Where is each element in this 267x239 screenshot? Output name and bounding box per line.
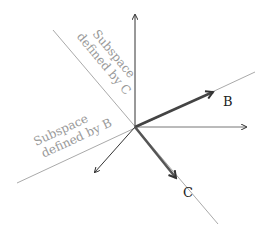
subspace-c-label: Subspace defined by C — [74, 21, 145, 98]
vector-c-arrow — [135, 127, 176, 178]
vector-c-label: C — [183, 185, 193, 200]
subspace-diagram: B C Subspace defined by C Subspace defin… — [0, 0, 267, 239]
subspace-b-label: Subspace defined by B — [31, 103, 114, 162]
vector-b-label: B — [223, 94, 233, 109]
vector-b-arrow — [135, 92, 213, 127]
